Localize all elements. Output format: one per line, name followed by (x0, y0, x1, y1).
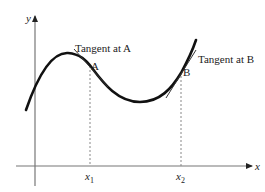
tangent-a-label: Tangent at A (75, 42, 131, 54)
point-a-label: A (91, 60, 99, 72)
tick-label-x2: x2 (175, 170, 185, 185)
tick-label-x1: x1 (84, 170, 94, 185)
point-b-label: B (183, 66, 190, 78)
tangent-line-b (166, 50, 196, 98)
tangent-b-label: Tangent at B (198, 53, 254, 65)
diagram-canvas: y x Tangent at A A Tangent at B B x1 x2 (0, 0, 265, 192)
y-axis-label: y (25, 12, 31, 24)
x-axis-label: x (254, 160, 260, 172)
